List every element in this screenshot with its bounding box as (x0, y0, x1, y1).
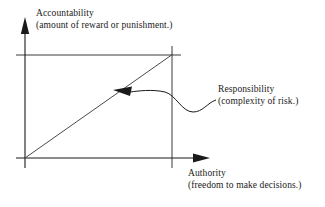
diagram-canvas: Accountability (amount of reward or puni… (0, 0, 325, 207)
annotation-leader-curve (130, 90, 216, 112)
y-axis-label-title: Accountability (36, 8, 173, 20)
responsibility-label-title: Responsibility (218, 84, 298, 96)
y-axis-arrowhead-icon (21, 17, 29, 34)
x-axis-label: Authority (freedom to make decisions.) (188, 168, 302, 191)
diagonal-relationship-line (25, 54, 173, 158)
x-axis-label-title: Authority (188, 168, 302, 180)
x-axis-arrowhead-icon (193, 154, 210, 163)
y-axis-label-description: (amount of reward or punishment.) (36, 20, 173, 32)
y-axis-label: Accountability (amount of reward or puni… (36, 8, 173, 31)
responsibility-label-description: (complexity of risk.) (218, 96, 298, 108)
x-axis-label-description: (freedom to make decisions.) (188, 180, 302, 192)
responsibility-annotation-label: Responsibility (complexity of risk.) (218, 84, 298, 107)
